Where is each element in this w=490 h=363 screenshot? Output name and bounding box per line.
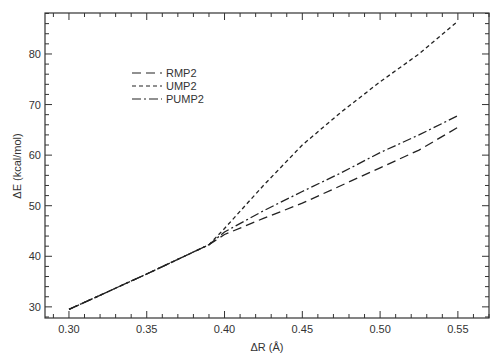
- series-rmp2: [69, 127, 458, 309]
- x-tick-label: 0.35: [136, 323, 157, 335]
- legend-label-pump2: PUMP2: [166, 93, 204, 105]
- y-axis-label: ΔE (kcal/mol): [11, 133, 23, 198]
- y-tick-label: 70: [29, 99, 41, 111]
- x-tick-label: 0.40: [214, 323, 235, 335]
- series-pump2: [69, 116, 458, 310]
- legend-label-ump2: UMP2: [166, 80, 197, 92]
- y-axis: 304050607080: [29, 14, 489, 317]
- y-tick-label: 40: [29, 250, 41, 262]
- line-chart: 0.300.350.400.450.500.55 304050607080 RM…: [0, 0, 490, 363]
- y-tick-label: 80: [29, 48, 41, 60]
- plot-area: [45, 13, 489, 318]
- y-tick-label: 50: [29, 200, 41, 212]
- x-tick-label: 0.45: [292, 323, 313, 335]
- plot-frame: [45, 13, 489, 318]
- legend: RMP2 UMP2 PUMP2: [132, 67, 204, 105]
- legend-label-rmp2: RMP2: [166, 67, 197, 79]
- y-tick-label: 30: [29, 301, 41, 313]
- y-tick-label: 60: [29, 149, 41, 161]
- x-axis-label: ΔR (Å): [250, 341, 283, 353]
- series-layer: [69, 21, 458, 309]
- x-tick-label: 0.55: [447, 323, 468, 335]
- series-ump2: [69, 21, 458, 309]
- x-tick-label: 0.30: [58, 323, 79, 335]
- x-tick-label: 0.50: [369, 323, 390, 335]
